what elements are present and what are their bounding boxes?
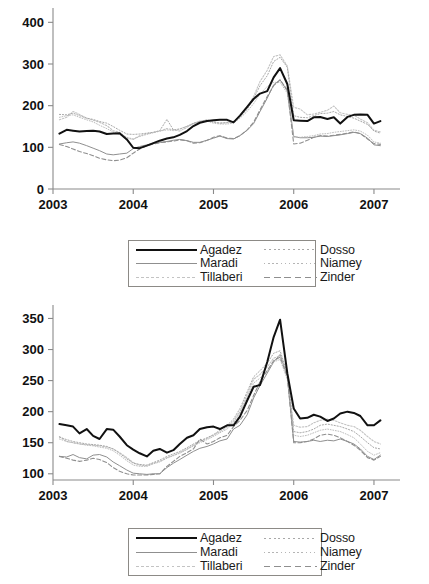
legend-label-agadez: Agadez	[200, 532, 262, 545]
series-line-maradi	[59, 354, 380, 474]
y-tick-label: 0	[37, 182, 44, 197]
chart-panel-top: 010020030040020032004200520062007	[0, 0, 429, 230]
legend-swatch-niamey	[262, 257, 320, 269]
x-tick-label: 2005	[199, 197, 228, 212]
chart-panel-bottom: 10015020025030035020032004200520062007	[0, 295, 429, 525]
x-tick-label: 2003	[39, 488, 68, 503]
series-line-tillaberi	[59, 55, 380, 140]
legend-grid-bottom: Agadez Dosso Maradi Niamey Tillaberi Zin…	[129, 529, 321, 575]
legend-swatch-niamey	[262, 546, 320, 558]
y-tick-label: 300	[22, 342, 44, 357]
legend-label-dosso: Dosso	[320, 244, 362, 257]
x-tick-label: 2005	[199, 488, 228, 503]
legend-label-zinder: Zinder	[320, 560, 362, 573]
series-line-dosso	[59, 57, 380, 134]
x-tick-label: 2007	[360, 197, 389, 212]
legend-swatch-maradi	[134, 257, 200, 269]
series-line-dosso	[59, 351, 380, 465]
legend-label-agadez: Agadez	[200, 244, 262, 257]
y-tick-label: 200	[22, 404, 44, 419]
legend-swatch-zinder	[262, 271, 320, 283]
legend-swatch-dosso	[262, 244, 320, 256]
x-tick-label: 2006	[279, 197, 308, 212]
legend-swatch-tillaberi	[134, 560, 200, 572]
plot-lines	[59, 55, 380, 161]
y-tick-label: 200	[22, 98, 44, 113]
y-tick-label: 300	[22, 57, 44, 72]
legend-swatch-agadez	[134, 244, 200, 256]
x-tick-label: 2007	[360, 488, 389, 503]
legend-label-niamey: Niamey	[320, 546, 362, 559]
y-tick-label: 150	[22, 435, 44, 450]
series-line-agadez	[59, 320, 380, 457]
legend-top: Agadez Dosso Maradi Niamey Tillaberi Zin…	[128, 240, 316, 287]
x-tick-label: 2004	[119, 197, 149, 212]
x-tick-label: 2004	[119, 488, 149, 503]
legend-swatch-maradi	[134, 546, 200, 558]
legend-swatch-agadez	[134, 532, 200, 544]
y-tick-label: 400	[22, 15, 44, 30]
series-line-tillaberi	[59, 356, 380, 466]
legend-label-maradi: Maradi	[200, 257, 262, 270]
series-line-niamey	[59, 359, 380, 466]
x-tick-label: 2006	[279, 488, 308, 503]
legend-grid-top: Agadez Dosso Maradi Niamey Tillaberi Zin…	[129, 241, 315, 286]
line-chart-bottom: 10015020025030035020032004200520062007	[0, 295, 429, 525]
legend-label-tillaberi: Tillaberi	[200, 560, 262, 573]
legend-label-maradi: Maradi	[200, 546, 262, 559]
y-tick-label: 350	[22, 311, 44, 326]
line-chart-top: 010020030040020032004200520062007	[0, 0, 429, 230]
y-tick-label: 250	[22, 373, 44, 388]
legend-swatch-zinder	[262, 560, 320, 572]
legend-bottom: Agadez Dosso Maradi Niamey Tillaberi Zin…	[128, 528, 322, 576]
legend-swatch-tillaberi	[134, 271, 200, 283]
y-tick-label: 100	[22, 140, 44, 155]
legend-label-tillaberi: Tillaberi	[200, 271, 262, 284]
legend-label-zinder: Zinder	[320, 271, 362, 284]
legend-label-dosso: Dosso	[320, 532, 362, 545]
y-tick-label: 100	[22, 466, 44, 481]
x-tick-label: 2003	[39, 197, 68, 212]
plot-lines	[59, 320, 380, 475]
legend-swatch-dosso	[262, 532, 320, 544]
legend-label-niamey: Niamey	[320, 257, 362, 270]
